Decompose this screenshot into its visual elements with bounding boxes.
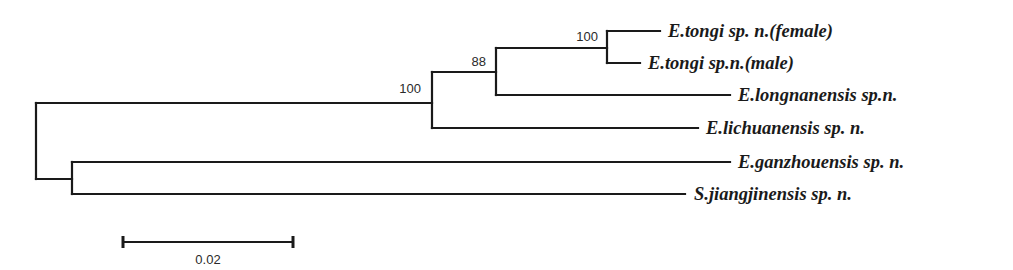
taxon-label-tongi-male: E.tongi sp.n.(male) <box>647 53 794 74</box>
support-tongi: 100 <box>576 29 598 44</box>
support-88: 88 <box>472 54 486 69</box>
support-ingroup: 100 <box>399 81 421 96</box>
taxon-label-lichuanensis: E.lichuanensis sp. n. <box>705 118 865 138</box>
taxon-label-ganzhouensis: E.ganzhouensis sp. n. <box>737 152 904 172</box>
ingroup-clade: 100 88 100 E.tongi sp. n.(female) E.tong… <box>36 21 897 138</box>
taxon-label-tongi-female: E.tongi sp. n.(female) <box>667 21 833 42</box>
outgroup-clade: E.ganzhouensis sp. n. S.jiangjinensis sp… <box>36 152 904 204</box>
phylogenetic-tree: 100 88 100 E.tongi sp. n.(female) E.tong… <box>0 0 1013 270</box>
scale-bar-label: 0.02 <box>195 252 220 267</box>
scale-bar: 0.02 <box>123 236 293 267</box>
taxon-label-longnanensis: E.longnanensis sp.n. <box>737 85 897 105</box>
taxon-label-jiangjinensis: S.jiangjinensis sp. n. <box>694 184 852 204</box>
